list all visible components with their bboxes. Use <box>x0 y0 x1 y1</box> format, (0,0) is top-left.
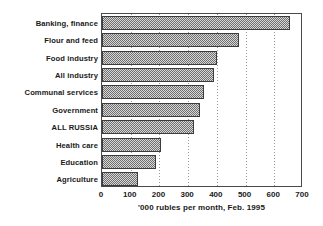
bar <box>102 120 194 134</box>
category-axis-labels: Banking, financeFlour and feedFood indus… <box>2 14 98 186</box>
category-label: Agriculture <box>2 173 98 187</box>
bar <box>102 33 239 47</box>
category-label: All industry <box>2 69 98 83</box>
bar <box>102 51 217 65</box>
category-label: Banking, finance <box>2 17 98 31</box>
category-label: Flour and feed <box>2 34 98 48</box>
category-label: Health care <box>2 139 98 153</box>
category-label: ALL RUSSIA <box>2 121 98 135</box>
bar <box>102 16 290 30</box>
x-tick-label: 0 <box>99 189 103 200</box>
bar <box>102 103 200 117</box>
category-label: Food industry <box>2 52 98 66</box>
bar <box>102 155 156 169</box>
x-axis-caption: '000 rubles per month, Feb. 1995 <box>101 203 302 212</box>
x-tick-label: 600 <box>267 189 280 200</box>
x-tick-label: 500 <box>238 189 251 200</box>
x-tick-label: 400 <box>209 189 222 200</box>
x-axis-tick-labels: 0100200300400500600700 <box>101 189 302 201</box>
x-tick-label: 700 <box>295 189 308 200</box>
plot-area <box>101 13 302 187</box>
category-label: Communal services <box>2 86 98 100</box>
bar-series <box>102 14 301 186</box>
x-tick-label: 200 <box>152 189 165 200</box>
bar <box>102 68 214 82</box>
bar-chart: Banking, financeFlour and feedFood indus… <box>0 0 323 226</box>
x-tick-label: 100 <box>123 189 136 200</box>
category-label: Education <box>2 156 98 170</box>
bar <box>102 172 138 186</box>
x-tick-label: 300 <box>180 189 193 200</box>
category-label: Government <box>2 104 98 118</box>
bar <box>102 138 161 152</box>
bar <box>102 85 204 99</box>
